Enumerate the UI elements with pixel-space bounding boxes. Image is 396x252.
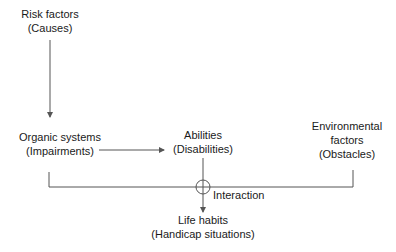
node-abilities: Abilities (Disabilities) xyxy=(163,128,243,156)
environmental-factors-line1: Environmental xyxy=(305,119,389,133)
environmental-factors-line2: factors xyxy=(305,133,389,147)
abilities-title: Abilities xyxy=(163,128,243,142)
node-organic-systems: Organic systems (Impairments) xyxy=(10,130,110,158)
life-habits-subtitle: (Handicap situations) xyxy=(143,227,263,241)
risk-factors-subtitle: (Causes) xyxy=(10,21,90,35)
life-habits-title: Life habits xyxy=(143,213,263,227)
node-life-habits: Life habits (Handicap situations) xyxy=(143,213,263,241)
node-environmental-factors: Environmental factors (Obstacles) xyxy=(305,119,389,161)
environmental-factors-subtitle: (Obstacles) xyxy=(305,147,389,161)
risk-factors-title: Risk factors xyxy=(10,7,90,21)
interaction-bracket xyxy=(49,170,353,187)
interaction-label: Interaction xyxy=(213,188,264,202)
organic-systems-subtitle: (Impairments) xyxy=(10,144,110,158)
abilities-subtitle: (Disabilities) xyxy=(163,142,243,156)
node-risk-factors: Risk factors (Causes) xyxy=(10,7,90,35)
organic-systems-title: Organic systems xyxy=(10,130,110,144)
